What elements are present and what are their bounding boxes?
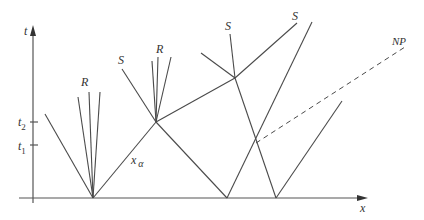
rarefaction-label-mid: R: [155, 42, 164, 56]
shock-s-mid: [122, 69, 156, 122]
rarefaction-label-left: R: [80, 75, 89, 89]
t-axis-label: t: [24, 24, 28, 38]
shock-label-top-mid: S: [225, 19, 231, 33]
rarefaction-fan-left-3: [93, 92, 100, 198]
incoming-line-c: [201, 53, 235, 78]
wave-diagram: t x t2 t1: [0, 0, 424, 220]
x-alpha-line: [93, 122, 156, 198]
axes: [19, 25, 368, 203]
new-path-label: NP: [391, 35, 406, 47]
shock-label-left: S: [118, 53, 124, 67]
shock-s-top-right: [235, 23, 297, 78]
t-axis-arrow-icon: [30, 25, 36, 36]
line-b-to-d: [156, 122, 227, 198]
x-axis-label: x: [359, 201, 366, 215]
line-d-up: [227, 22, 312, 198]
wave-lines: [45, 22, 405, 198]
shock-s-top-mid: [230, 34, 235, 78]
left-shock-line: [45, 114, 93, 198]
shock-label-top-right: S: [292, 9, 298, 23]
rarefaction-fan-mid-1: [152, 61, 156, 122]
x-alpha-label: xα: [130, 153, 144, 169]
line-e-up: [276, 101, 342, 198]
new-path-dashed-line: [256, 47, 405, 143]
line-b-to-c: [156, 78, 235, 122]
t2-label: t2: [18, 115, 26, 132]
t1-label: t1: [18, 139, 26, 156]
